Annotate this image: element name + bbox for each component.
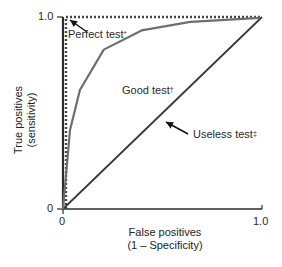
annotation-perfect-text: Perfect test <box>68 28 124 40</box>
plot-area <box>57 17 262 214</box>
annotation-useless-test: Useless test‡ <box>193 128 257 141</box>
annotation-good-mark: † <box>170 86 174 93</box>
x-axis-label-line1: False positives <box>100 226 230 239</box>
perfect-test-arrow-head-icon <box>70 20 78 27</box>
x-axis-label-line2: (1 – Specificity) <box>100 239 230 252</box>
y-tick-bottom: 0 <box>47 202 53 214</box>
x-tick-left: 0 <box>59 215 65 227</box>
annotation-perfect-mark: * <box>124 30 127 37</box>
annotation-useless-text: Useless test <box>193 128 253 140</box>
annotation-good-test: Good test† <box>122 84 174 97</box>
x-axis-label: False positives (1 – Specificity) <box>100 226 230 252</box>
y-tick-top: 1.0 <box>38 10 53 22</box>
useless-test-line <box>63 17 262 209</box>
y-axis-label-line1: True positives <box>12 65 25 175</box>
annotation-perfect-test: Perfect test* <box>68 28 126 41</box>
x-tick-right: 1.0 <box>253 215 268 227</box>
y-axis-label-line2: (sensitivity) <box>25 65 38 175</box>
y-axis-label: True positives (sensitivity) <box>12 65 38 175</box>
annotation-useless-mark: ‡ <box>253 130 257 137</box>
annotation-good-text: Good test <box>122 84 170 96</box>
